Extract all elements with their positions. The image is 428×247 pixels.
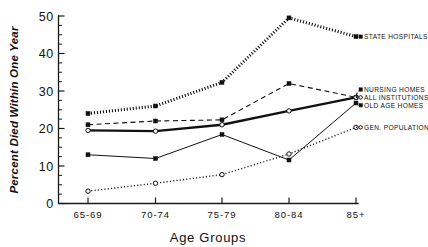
legend-marker-all-institutions: [359, 96, 362, 99]
data-point-nursing-homes-75-79: [220, 118, 224, 122]
legend-marker-state-hospitals: [359, 35, 362, 38]
legend-label-nursing-homes: NURSING HOMES: [364, 86, 425, 93]
data-point-old-age-homes-65-69: [86, 153, 90, 157]
y-tick-label-30: 30: [39, 85, 54, 99]
y-axis-title: Percent Died Within One Year: [8, 26, 20, 194]
legend-label-gen-population: GEN. POPULATION: [364, 124, 428, 131]
data-point-state-hospitals-80-84: [287, 16, 291, 20]
data-point-nursing-homes-70-74: [154, 119, 158, 123]
line-chart: 01020304050 65-6970-7475-7980-8485+ Age …: [0, 0, 428, 247]
data-point-old-age-homes-80-84: [287, 158, 291, 162]
data-point-all-institutions-80-84: [287, 109, 291, 113]
y-tick-label-10: 10: [39, 160, 54, 174]
data-point-state-hospitals-70-74: [154, 104, 158, 108]
x-axis-title: Age Groups: [170, 230, 246, 245]
data-point-gen-population-70-74: [153, 181, 157, 185]
x-tick-label-75-79: 75-79: [208, 209, 237, 220]
y-tick-label-0: 0: [46, 197, 53, 211]
data-point-all-institutions-65-69: [86, 128, 90, 132]
legend-marker-old-age-homes: [359, 104, 362, 107]
data-point-gen-population-65-69: [86, 189, 90, 193]
x-tick-label-80-84: 80-84: [275, 209, 304, 220]
y-tick-label-40: 40: [39, 47, 54, 61]
data-point-state-hospitals-75-79: [220, 80, 224, 84]
data-point-gen-population-75-79: [220, 172, 224, 176]
y-tick-label-20: 20: [39, 122, 54, 136]
data-point-all-institutions-75-79: [220, 123, 224, 127]
legend-marker-gen-population: [359, 126, 362, 129]
data-point-old-age-homes-75-79: [220, 133, 224, 137]
data-point-gen-population-80-84: [287, 152, 291, 156]
legend-marker-nursing-homes: [359, 88, 362, 91]
chart-figure: 01020304050 65-6970-7475-7980-8485+ Age …: [0, 0, 428, 247]
data-point-old-age-homes-70-74: [154, 157, 158, 161]
legend-label-state-hospitals: STATE HOSPITALS: [364, 33, 428, 40]
legend-label-all-institutions: ALL INSTITUTIONS: [364, 94, 428, 101]
legend-label-old-age-homes: OLD AGE HOMES: [364, 102, 424, 109]
data-point-all-institutions-70-74: [153, 129, 157, 133]
data-point-nursing-homes-65-69: [86, 123, 90, 127]
data-point-state-hospitals-65-69: [86, 112, 90, 116]
x-tick-label-85+: 85+: [347, 209, 366, 220]
y-tick-label-50: 50: [39, 10, 54, 24]
data-point-nursing-homes-80-84: [287, 82, 291, 86]
x-tick-label-65-69: 65-69: [74, 209, 103, 220]
x-tick-label-70-74: 70-74: [141, 209, 170, 220]
